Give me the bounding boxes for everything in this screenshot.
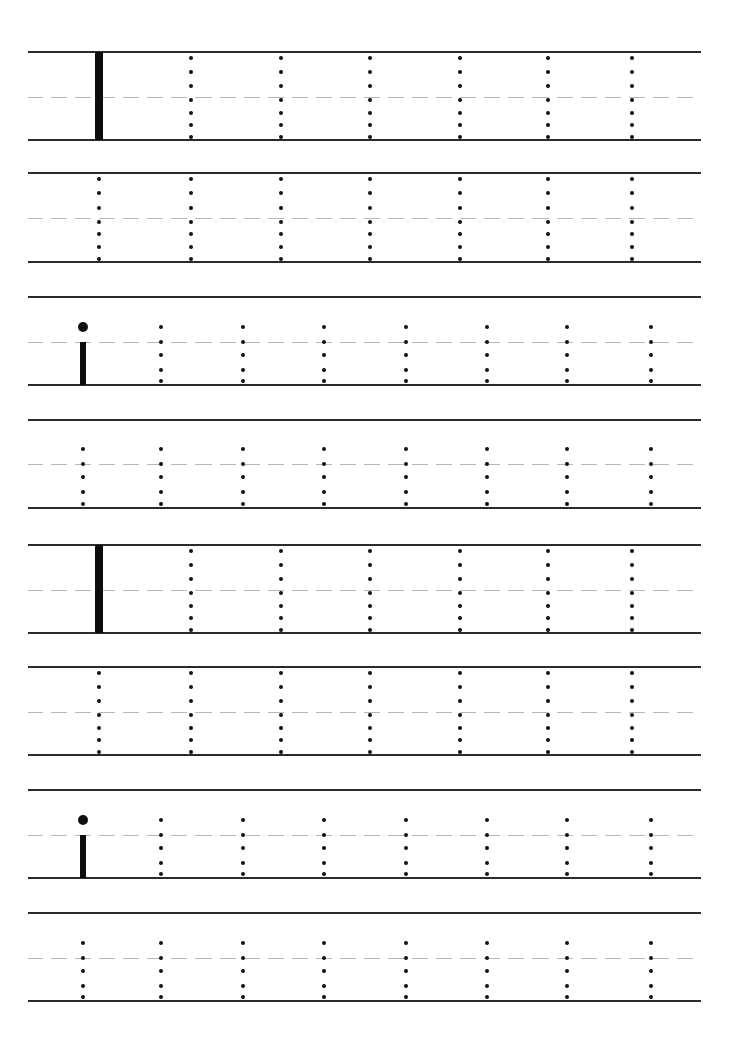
letter-i-stem [80, 342, 86, 385]
trace-dot [189, 738, 193, 742]
trace-dot [322, 941, 326, 945]
trace-dot [546, 616, 550, 620]
trace-dot [565, 502, 569, 506]
trace-dot [546, 84, 550, 88]
trace-dot [241, 379, 245, 383]
trace-dot [630, 232, 634, 236]
midline [28, 958, 701, 959]
trace-dot [458, 713, 462, 717]
trace-dot [485, 872, 489, 876]
top-line [28, 912, 701, 914]
trace-dot [189, 577, 193, 581]
trace-dot [279, 577, 283, 581]
trace-dot [241, 956, 245, 960]
trace-dot [649, 462, 653, 466]
trace-dot [97, 191, 101, 195]
trace-dot [630, 220, 634, 224]
trace-dot [485, 861, 489, 865]
trace-dot [630, 699, 634, 703]
top-line [28, 51, 701, 53]
trace-dot [279, 111, 283, 115]
letter-i-dot [78, 815, 88, 825]
trace-dot [159, 833, 163, 837]
trace-dot [189, 671, 193, 675]
trace-dot [368, 206, 372, 210]
trace-dot [241, 995, 245, 999]
trace-dot [368, 70, 372, 74]
trace-dot [159, 969, 163, 973]
trace-dot [241, 368, 245, 372]
trace-dot [159, 447, 163, 451]
trace-dot [189, 70, 193, 74]
trace-dot [485, 818, 489, 822]
trace-dot [368, 123, 372, 127]
trace-dot [404, 956, 408, 960]
trace-dot [630, 591, 634, 595]
trace-dot [458, 563, 462, 567]
trace-dot [458, 699, 462, 703]
trace-dot [189, 232, 193, 236]
trace-dot [404, 325, 408, 329]
trace-dot [279, 220, 283, 224]
trace-dot [546, 177, 550, 181]
trace-dot [649, 818, 653, 822]
trace-dot [630, 549, 634, 553]
trace-dot [279, 123, 283, 127]
trace-dot [458, 591, 462, 595]
trace-dot [565, 956, 569, 960]
trace-dot [279, 84, 283, 88]
trace-dot [404, 447, 408, 451]
trace-dot [97, 738, 101, 742]
trace-dot [485, 379, 489, 383]
trace-dot [322, 379, 326, 383]
trace-dot [159, 861, 163, 865]
trace-dot [458, 84, 462, 88]
trace-dot [279, 616, 283, 620]
trace-dot [458, 56, 462, 60]
trace-dot [279, 604, 283, 608]
trace-dot [649, 861, 653, 865]
trace-dot [458, 245, 462, 249]
trace-dot [97, 671, 101, 675]
midline [28, 97, 701, 98]
trace-dot [546, 191, 550, 195]
trace-dot [189, 56, 193, 60]
trace-dot [81, 502, 85, 506]
trace-dot [322, 956, 326, 960]
trace-dot [458, 177, 462, 181]
trace-dot [485, 447, 489, 451]
trace-dot [630, 84, 634, 88]
trace-dot [279, 671, 283, 675]
trace-dot [458, 191, 462, 195]
letter-i-dot [78, 322, 88, 332]
midline [28, 835, 701, 836]
trace-dot [546, 98, 550, 102]
trace-dot [97, 177, 101, 181]
trace-dot [322, 969, 326, 973]
top-line [28, 789, 701, 791]
trace-dot [565, 353, 569, 357]
trace-dot [189, 111, 193, 115]
trace-dot [546, 738, 550, 742]
trace-dot [368, 616, 372, 620]
trace-dot [368, 98, 372, 102]
trace-dot [649, 872, 653, 876]
trace-dot [159, 475, 163, 479]
trace-dot [97, 713, 101, 717]
trace-dot [159, 984, 163, 988]
trace-dot [241, 462, 245, 466]
trace-dot [485, 846, 489, 850]
trace-dot [458, 232, 462, 236]
trace-dot [159, 941, 163, 945]
trace-dot [368, 111, 372, 115]
trace-dot [189, 177, 193, 181]
trace-dot [189, 191, 193, 195]
trace-dot [368, 713, 372, 717]
trace-dot [241, 340, 245, 344]
trace-dot [485, 462, 489, 466]
trace-dot [630, 56, 634, 60]
trace-dot [458, 685, 462, 689]
trace-dot [630, 738, 634, 742]
baseline [28, 139, 701, 141]
trace-dot [189, 591, 193, 595]
